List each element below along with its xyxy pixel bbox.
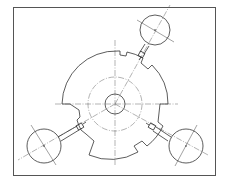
technical-drawing	[0, 0, 230, 189]
dial-gauge-top-right	[137, 15, 174, 60]
radial-line-upper-right	[115, 5, 170, 104]
drawing-frame	[14, 8, 216, 176]
dial-gauge-bottom-left	[27, 122, 86, 165]
dial-gauge-bottom-right	[146, 123, 203, 166]
workpiece-disc	[18, 5, 208, 165]
radial-line-lower-right	[115, 104, 208, 155]
